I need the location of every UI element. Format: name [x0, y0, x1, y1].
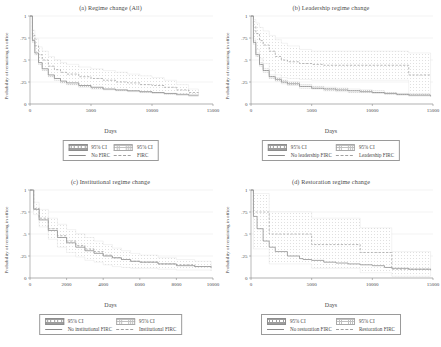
svg-text:1: 1 — [245, 14, 248, 19]
svg-text:10000: 10000 — [207, 282, 220, 287]
legend-line-cell — [334, 151, 357, 158]
legend-label: No FIRC — [89, 151, 112, 158]
legend-label: No institutional FIRC — [66, 325, 114, 332]
solid-line-icon — [68, 153, 85, 158]
svg-text:4000: 4000 — [98, 282, 109, 287]
panel-d-plot: 0.25.5.751050001000015000 — [221, 186, 441, 294]
svg-text:.5: .5 — [244, 58, 248, 63]
svg-text:5000: 5000 — [307, 282, 318, 287]
svg-text:15000: 15000 — [427, 282, 440, 287]
svg-text:0: 0 — [29, 282, 32, 287]
legend-label: 95% CI — [288, 317, 334, 325]
svg-text:0: 0 — [250, 108, 253, 113]
legend-label: 95% CI — [137, 317, 178, 325]
svg-text:15000: 15000 — [207, 108, 220, 113]
ci-swatch-solid-icon — [267, 318, 286, 325]
panel-a-plot: 0.25.5.751050001000015000 — [0, 12, 221, 120]
legend-line-cell — [334, 325, 357, 332]
svg-text:0: 0 — [250, 282, 253, 287]
svg-text:.5: .5 — [23, 58, 27, 63]
legend-label: Institutional FIRC — [137, 325, 178, 332]
legend-label: 95% CI — [289, 143, 334, 151]
ci-swatch-dashed-icon — [114, 144, 133, 151]
solid-line-icon — [267, 327, 284, 332]
svg-text:.75: .75 — [20, 210, 27, 215]
svg-text:1: 1 — [245, 188, 248, 193]
svg-text:6000: 6000 — [135, 282, 146, 287]
dashed-line-icon — [336, 153, 353, 158]
panel-d-title: (d) Restoration regime change — [221, 178, 441, 185]
svg-text:.25: .25 — [20, 254, 27, 259]
legend-swatch-cell — [266, 143, 289, 151]
svg-text:15000: 15000 — [427, 108, 440, 113]
legend-swatch-cell — [114, 317, 137, 325]
legend-line-cell — [266, 151, 289, 158]
figure-grid: (a) Regime change (All) Probability of r… — [0, 0, 441, 347]
legend-line-cell — [112, 151, 135, 158]
svg-text:8000: 8000 — [171, 282, 182, 287]
legend-swatch-cell — [265, 317, 288, 325]
panel-b-title: (b) Leadership regime change — [221, 4, 441, 11]
legend-swatch-cell — [66, 143, 89, 151]
legend-line-cell — [43, 325, 66, 332]
svg-text:5000: 5000 — [86, 108, 97, 113]
svg-text:.25: .25 — [241, 80, 248, 85]
legend-label: 95% CI — [89, 143, 112, 151]
svg-text:1: 1 — [24, 188, 27, 193]
panel-a: (a) Regime change (All) Probability of r… — [0, 0, 221, 174]
legend-line-cell — [66, 151, 89, 158]
panel-c-title: (c) Institutional regime change — [0, 178, 221, 185]
ci-swatch-solid-icon — [68, 144, 87, 151]
svg-text:0: 0 — [24, 276, 27, 281]
legend-label: 95% CI — [357, 143, 396, 151]
svg-text:10000: 10000 — [366, 108, 379, 113]
ci-swatch-solid-icon — [268, 144, 287, 151]
svg-text:0: 0 — [245, 102, 248, 107]
svg-text:1: 1 — [24, 14, 27, 19]
legend-label: No leadership FIRC — [289, 151, 334, 158]
legend-label: Restoration FIRC — [357, 325, 397, 332]
panel-d: (d) Restoration regime change Probabilit… — [221, 174, 441, 347]
svg-text:5000: 5000 — [307, 108, 318, 113]
ci-swatch-dashed-icon — [116, 318, 135, 325]
dashed-line-icon — [114, 153, 131, 158]
legend-label: 95% CI — [135, 143, 155, 151]
legend-label: 95% CI — [66, 317, 114, 325]
panel-c: (c) Institutional regime change Probabil… — [0, 174, 221, 347]
legend-label: FIRC — [135, 151, 155, 158]
panel-a-xlabel: Days — [0, 128, 221, 134]
panel-a-title: (a) Regime change (All) — [0, 4, 221, 11]
svg-text:.25: .25 — [241, 254, 248, 259]
panel-d-xlabel: Days — [221, 302, 441, 308]
legend-label: 95% CI — [357, 317, 397, 325]
panel-d-legend: 95% CI 95% CI No restoration FIRC Restor… — [261, 314, 401, 335]
svg-text:.5: .5 — [244, 232, 248, 237]
ci-swatch-solid-icon — [45, 318, 64, 325]
svg-text:10000: 10000 — [366, 282, 379, 287]
panel-b-plot: 0.25.5.751050001000015000 — [221, 12, 441, 120]
dashed-line-icon — [336, 327, 353, 332]
legend-swatch-cell — [43, 317, 66, 325]
legend-label: No restoration FIRC — [288, 325, 334, 332]
svg-text:10000: 10000 — [146, 108, 159, 113]
legend-swatch-cell — [334, 143, 357, 151]
svg-text:.75: .75 — [241, 36, 248, 41]
panel-b-xlabel: Days — [221, 128, 441, 134]
panel-c-legend: 95% CI 95% CI No institutional FIRC Inst… — [39, 314, 183, 335]
ci-swatch-dashed-icon — [336, 144, 355, 151]
svg-text:2000: 2000 — [62, 282, 73, 287]
panel-b-legend: 95% CI 95% CI No leadership FIRC Leaders… — [262, 140, 400, 161]
svg-text:0: 0 — [29, 108, 32, 113]
svg-text:0: 0 — [24, 102, 27, 107]
legend-swatch-cell — [112, 143, 135, 151]
panel-a-legend: 95% CI 95% CI No FIRC FIRC — [62, 140, 159, 161]
svg-text:.5: .5 — [23, 232, 27, 237]
ci-swatch-dashed-icon — [336, 318, 355, 325]
svg-text:.25: .25 — [20, 80, 27, 85]
dashed-line-icon — [116, 327, 133, 332]
svg-text:0: 0 — [245, 276, 248, 281]
legend-line-cell — [114, 325, 137, 332]
panel-c-xlabel: Days — [0, 302, 221, 308]
solid-line-icon — [45, 327, 62, 332]
panel-c-plot: 0.25.5.7510200040006000800010000 — [0, 186, 221, 294]
